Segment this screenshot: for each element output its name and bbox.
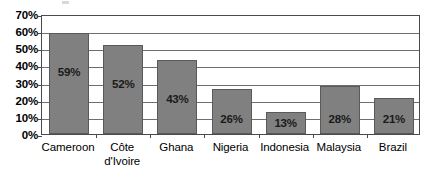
y-tick-label: 20% (0, 95, 38, 107)
plot-area: 59%52%43%26%13%28%21% (41, 15, 420, 135)
bar-value-label: 43% (157, 93, 197, 105)
bar (49, 33, 89, 134)
x-tick-mark (367, 134, 368, 138)
x-tick-mark (204, 134, 205, 138)
x-tick-mark (259, 134, 260, 138)
x-category-label-line1: Brazil (379, 141, 407, 153)
y-tick-mark (38, 136, 42, 137)
y-tick-label: 0% (0, 129, 38, 141)
x-category-label-line1: Ghana (159, 141, 193, 153)
x-category-label-line1: Indonesia (260, 141, 309, 153)
bar (212, 89, 252, 134)
bar-chart: 70%60%50%40%30%20%10%0% 59%52%43%26%13%2… (0, 0, 433, 185)
x-tick-mark (150, 134, 151, 138)
bar-value-label: 52% (103, 78, 143, 90)
y-tick-label: 60% (0, 26, 38, 38)
y-tick-label: 10% (0, 112, 38, 124)
y-tick-label: 50% (0, 43, 38, 55)
bar-value-label: 21% (374, 113, 414, 125)
bar-value-label: 26% (212, 113, 252, 125)
x-category-label: Brazil (360, 140, 426, 154)
scan-artifact (62, 1, 69, 4)
y-tick-label: 30% (0, 78, 38, 90)
bar-value-label: 59% (49, 66, 89, 78)
bars-group: 59%52%43%26%13%28%21% (42, 16, 419, 134)
x-category-label-line1: Nigeria (213, 141, 249, 153)
x-category-label-line2: d'Ivoire (89, 154, 155, 168)
x-category-label-line1: Côte (110, 141, 134, 153)
y-tick-label: 40% (0, 60, 38, 72)
x-tick-mark (96, 134, 97, 138)
bar-value-label: 28% (320, 113, 360, 125)
x-tick-mark (313, 134, 314, 138)
x-category-label-line1: Cameroon (42, 141, 95, 153)
x-category-label-line1: Malaysia (316, 141, 361, 153)
x-axis: CameroonCôted'IvoireGhanaNigeriaIndonesi… (41, 140, 420, 185)
y-axis: 70%60%50%40%30%20%10%0% (0, 0, 38, 185)
y-tick-label: 70% (0, 9, 38, 21)
bar (320, 86, 360, 134)
bar-value-label: 13% (266, 117, 306, 129)
